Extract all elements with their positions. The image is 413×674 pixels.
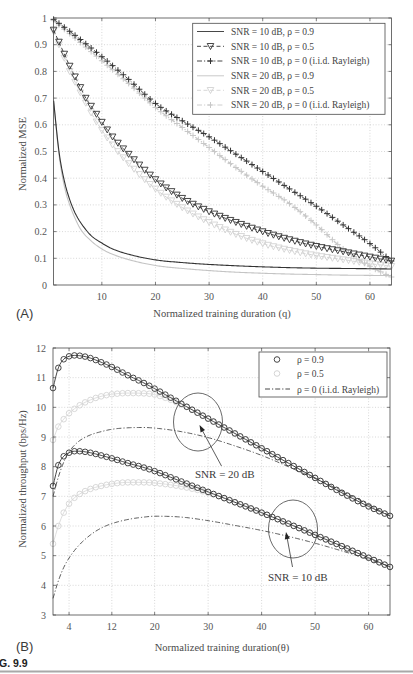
legend-item-snr10-rho05: SNR = 10 dB, ρ = 0.5	[231, 42, 314, 52]
y-tick-label: 0.4	[35, 173, 48, 184]
plus-marker	[276, 179, 282, 185]
plus-marker	[346, 226, 352, 232]
throughput-y-axis-label: Normalized throughput (bps/Hz)	[17, 410, 29, 548]
y-tick-label: 1	[42, 13, 47, 24]
y-tick-label: 0.8	[35, 66, 48, 77]
y-tick-label: 0.2	[35, 226, 48, 237]
x-tick-label: 20	[150, 621, 160, 632]
page-divider	[0, 671, 413, 673]
panel-a-label: (A)	[16, 306, 33, 321]
throughput-x-axis-label: Normalized training duration(θ)	[155, 642, 290, 654]
y-tick-label: 0.3	[35, 199, 48, 210]
y-tick-label: 12	[36, 343, 46, 354]
annotation-arrow-line	[201, 428, 222, 466]
arrowhead-icon	[200, 425, 206, 432]
plus-marker	[297, 193, 303, 199]
plus-marker	[201, 131, 207, 137]
plus-marker	[158, 104, 164, 110]
plus-marker	[383, 271, 389, 277]
plus-marker	[270, 175, 276, 181]
plus-marker	[174, 115, 180, 121]
plus-marker	[211, 137, 217, 143]
mse-x-axis-label: Normalized training duration (q)	[153, 308, 291, 320]
plus-marker	[254, 165, 260, 171]
figure-canvas: 10203040506000.10.20.30.40.50.60.70.80.9…	[0, 0, 413, 674]
figure-number-label: G. 9.9	[0, 657, 28, 669]
plus-marker	[319, 207, 325, 213]
mse-y-axis-label: Normalized MSE	[17, 117, 28, 191]
plus-marker	[233, 151, 239, 157]
plus-marker	[217, 141, 223, 147]
y-tick-label: 0.6	[35, 119, 48, 130]
plus-marker	[169, 111, 175, 117]
arrowhead-icon	[285, 532, 290, 539]
series-line	[53, 516, 390, 598]
annotation-text: SNR = 10 dB	[268, 571, 328, 583]
x-tick-label: 40	[258, 291, 268, 302]
y-tick-label: 9	[41, 432, 46, 443]
series-line	[54, 101, 392, 269]
legend-item-snr10-rho09: SNR = 10 dB, ρ = 0.9	[231, 27, 314, 37]
annotation-text: SNR = 20 dB	[195, 468, 255, 480]
mse-legend: SNR = 10 dB, ρ = 0.9 SNR = 10 dB, ρ = 0.…	[193, 23, 385, 114]
plus-marker	[228, 148, 234, 154]
plus-marker	[244, 172, 250, 178]
y-tick-label: 3	[41, 610, 46, 621]
plus-marker	[238, 155, 244, 161]
plus-marker	[244, 158, 250, 164]
plus-marker	[324, 211, 330, 217]
y-tick-label: 0	[42, 280, 47, 291]
y-tick-label: 5	[41, 550, 46, 561]
series-snr10-rho09	[54, 101, 392, 269]
y-tick-label: 0.5	[35, 146, 48, 157]
x-tick-label: 60	[364, 621, 374, 632]
y-tick-label: 11	[36, 372, 46, 383]
plus-marker	[313, 203, 319, 209]
plus-marker	[351, 229, 357, 235]
legend-item-snr10-rho0: SNR = 10 dB, ρ = 0 (i.i.d. Rayleigh)	[231, 56, 369, 67]
y-tick-label: 10	[36, 402, 46, 413]
plus-marker	[190, 124, 196, 130]
y-tick-label: 4	[41, 580, 46, 591]
y-tick-label: 8	[41, 461, 46, 472]
x-tick-label: 50	[310, 621, 320, 632]
legend-item-rho05: ρ = 0.5	[297, 369, 324, 379]
plus-marker	[303, 196, 309, 202]
annotation-snr10: SNR = 10 dB	[268, 500, 328, 583]
x-tick-label: 60	[365, 291, 375, 302]
x-tick-label: 12	[107, 621, 117, 632]
y-tick-label: 0.7	[35, 93, 48, 104]
plus-marker	[362, 237, 368, 243]
plus-marker	[335, 218, 341, 224]
series-snr10-rho0	[53, 516, 390, 598]
legend-item-snr20-rho09: SNR = 20 dB, ρ = 0.9	[231, 71, 314, 81]
plus-marker	[260, 169, 266, 175]
x-tick-label: 4	[67, 621, 72, 632]
y-tick-label: 6	[41, 521, 46, 532]
plus-marker	[163, 108, 169, 114]
x-tick-label: 50	[311, 291, 321, 302]
legend-item-snr20-rho0: SNR = 20 dB, ρ = 0 (i.i.d. Rayleigh)	[231, 100, 369, 111]
throughput-legend: ρ = 0.9 ρ = 0.5 ρ = 0 (i.i.d. Rayleigh)	[259, 352, 387, 397]
y-tick-label: 7	[41, 491, 46, 502]
x-tick-label: 20	[150, 291, 160, 302]
legend-item-rho0: ρ = 0 (i.i.d. Rayleigh)	[297, 385, 379, 396]
series-snr10-rho05	[50, 480, 393, 570]
y-tick-label: 0.9	[35, 39, 48, 50]
plus-marker	[179, 118, 185, 124]
plus-marker	[329, 214, 335, 220]
panel-b-label: (B)	[16, 639, 33, 654]
plus-marker	[195, 127, 201, 133]
plus-marker	[340, 222, 346, 228]
annotation-arrow-line	[287, 535, 293, 567]
plus-marker	[206, 134, 212, 140]
plus-marker	[185, 121, 191, 127]
x-tick-label: 30	[204, 291, 214, 302]
plus-marker	[222, 144, 228, 150]
plus-marker	[292, 189, 298, 195]
legend-item-rho09: ρ = 0.9	[297, 355, 324, 365]
plus-marker	[281, 182, 287, 188]
y-tick-label: 0.1	[35, 253, 48, 264]
x-tick-label: 10	[97, 291, 107, 302]
x-tick-label: 40	[257, 621, 267, 632]
